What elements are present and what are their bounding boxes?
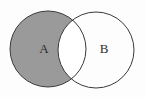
set-label-b: B	[100, 41, 109, 56]
venn-diagram-canvas: A B	[0, 0, 146, 97]
venn-diagram-figure: A B	[0, 0, 146, 97]
set-label-a: A	[39, 41, 49, 56]
